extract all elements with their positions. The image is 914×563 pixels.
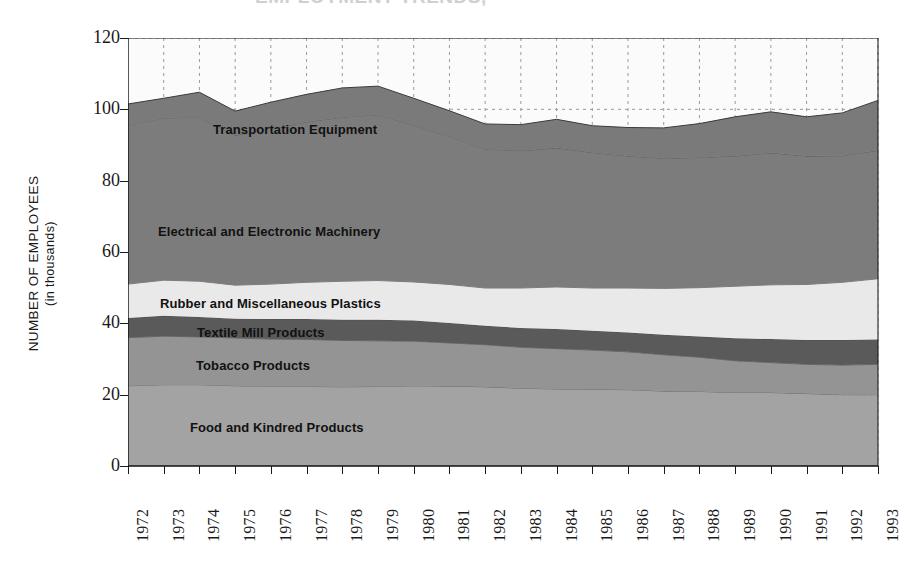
y-axis-label-line2: (in thousands) [43,221,57,306]
x-tick-label: 1991 [813,509,831,542]
y-axis-ticks: 020406080100120 [74,0,120,563]
series-inline-label: Rubber and Miscellaneous Plastics [160,296,381,311]
x-tick-label: 1987 [670,509,688,542]
x-tick-label: 1978 [348,509,366,542]
x-tick-mark [699,466,700,474]
x-tick-mark [592,466,593,474]
y-tick-label: 40 [74,313,120,331]
x-tick-mark [485,466,486,474]
y-tick-mark [120,181,128,182]
x-tick-label: 1972 [134,509,152,542]
plot-area [128,38,878,466]
x-tick-label: 1993 [884,509,902,542]
x-tick-mark [128,466,129,474]
y-tick-mark [120,323,128,324]
x-tick-mark [449,466,450,474]
x-tick-label: 1981 [455,509,473,542]
figure-title: EMPLOYMENT TRENDS, [255,0,487,8]
x-tick-mark [628,466,629,474]
series-inline-label: Electrical and Electronic Machinery [158,224,380,239]
y-tick-label: 20 [74,385,120,403]
x-tick-mark [521,466,522,474]
x-tick-label: 1989 [741,509,759,542]
y-tick-label: 120 [74,28,120,46]
y-tick-mark [120,395,128,396]
x-tick-mark [557,466,558,474]
x-tick-label: 1990 [777,509,795,542]
x-tick-label: 1973 [170,509,188,542]
y-tick-label: 100 [74,99,120,117]
y-tick-mark [120,38,128,39]
x-tick-label: 1982 [491,509,509,542]
x-axis-ticks: 1972197319741975197619771978197919801981… [128,466,878,563]
x-tick-mark [807,466,808,474]
x-tick-mark [878,466,879,474]
y-tick-label: 0 [74,456,120,474]
y-axis-label-line1: NUMBER OF EMPLOYEES [26,176,41,352]
x-tick-mark [164,466,165,474]
x-tick-label: 1986 [634,509,652,542]
x-tick-mark [199,466,200,474]
x-tick-mark [271,466,272,474]
x-tick-mark [664,466,665,474]
x-tick-mark [235,466,236,474]
y-tick-label: 80 [74,171,120,189]
series-inline-label: Transportation Equipment [213,122,377,137]
x-tick-mark [378,466,379,474]
x-tick-mark [342,466,343,474]
stacked-area-chart [128,38,879,467]
x-tick-label: 1975 [241,509,259,542]
x-tick-mark [842,466,843,474]
x-tick-label: 1992 [848,509,866,542]
y-axis-label: NUMBER OF EMPLOYEES (in thousands) [26,54,57,474]
x-tick-label: 1980 [420,509,438,542]
x-tick-label: 1984 [563,509,581,542]
x-tick-mark [735,466,736,474]
x-tick-mark [414,466,415,474]
x-tick-mark [307,466,308,474]
x-tick-label: 1983 [527,509,545,542]
x-tick-label: 1974 [205,509,223,542]
x-tick-label: 1977 [313,509,331,542]
y-tick-mark [120,252,128,253]
x-tick-mark [771,466,772,474]
series-inline-label: Textile Mill Products [197,325,325,340]
y-tick-label: 60 [74,242,120,260]
x-tick-label: 1979 [384,509,402,542]
figure-canvas: EMPLOYMENT TRENDS, NUMBER OF EMPLOYEES (… [0,0,914,563]
y-tick-mark [120,466,128,467]
x-tick-label: 1976 [277,509,295,542]
series-inline-label: Food and Kindred Products [190,420,364,435]
x-tick-label: 1988 [705,509,723,542]
x-tick-label: 1985 [598,509,616,542]
cropped-title-strip: EMPLOYMENT TRENDS, [0,0,914,10]
y-tick-mark [120,109,128,110]
series-inline-label: Tobacco Products [196,358,310,373]
